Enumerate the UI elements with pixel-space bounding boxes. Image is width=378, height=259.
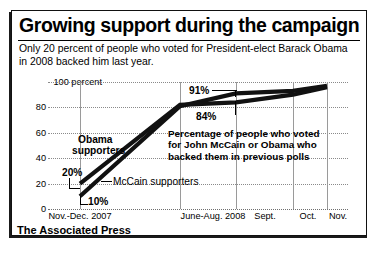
leader-mccain [101, 181, 112, 182]
annotation-line-3: backed them in previous polls [168, 151, 338, 162]
y-tick-40: 40 [36, 154, 46, 163]
series-label-obama-line2: supporters [72, 145, 125, 156]
y-tick-80: 80 [36, 103, 46, 112]
source-credit: The Associated Press [17, 224, 131, 236]
leader-sept-high-v [235, 90, 236, 97]
leader-sept-high-h [212, 90, 237, 91]
annotation-line-2: for John McCain or Obama who [168, 139, 338, 150]
y-axis-labels: 100 percent 80 60 40 20 0 [0, 82, 46, 209]
chart-title: Growing support during the campaign [19, 14, 359, 36]
y-tick-60: 60 [36, 129, 46, 138]
x-tick-nov: Nov. [329, 212, 347, 222]
x-tick-june-aug-2008: June-Aug. 2008 [181, 212, 246, 222]
label-sept-high: 91% [189, 85, 209, 97]
leader-sept-low-v [235, 101, 236, 115]
leader-mccain-start-h [80, 204, 88, 205]
label-mccain-start: 10% [88, 196, 108, 208]
frame-edge-bottom [11, 236, 367, 238]
series-label-obama-line1: Obama [78, 134, 113, 145]
label-obama-start: 20% [62, 167, 82, 179]
chart-subtitle: Only 20 percent of people who voted for … [19, 43, 355, 68]
chart-figure: Growing support during the campaign Only… [0, 0, 378, 259]
x-tick-sept: Sept. [254, 212, 275, 222]
label-sept-low: 84% [196, 111, 216, 123]
annotation-line-1: Percentage of people who voted [168, 128, 338, 139]
series-label-mccain: McCain supporters [113, 176, 199, 187]
chart-annotation: Percentage of people who voted for John … [168, 128, 338, 162]
x-tick-oct: Oct. [300, 212, 317, 222]
x-tick-nov-dec-2007: Nov.-Dec. 2007 [48, 212, 111, 222]
y-tick-20: 20 [36, 180, 46, 189]
title-divider [18, 40, 360, 41]
leader-obama-start-h [69, 188, 80, 189]
gridline-0-baseline [48, 209, 348, 210]
